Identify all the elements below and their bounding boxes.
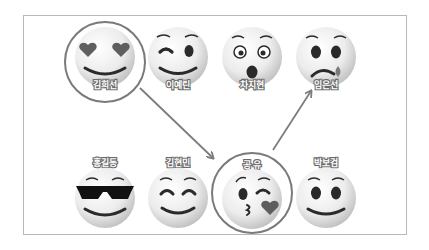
kissing-face-icon (222, 169, 282, 229)
astonished-face-icon (222, 27, 282, 87)
person-node-2[interactable]: 차지현 (222, 27, 282, 90)
person-name-label: 이예린 (166, 79, 189, 90)
person-node-5[interactable]: 김현민 (148, 157, 208, 228)
person-node-4[interactable]: 홍길동 (75, 157, 135, 228)
heart-eyes-face-icon (75, 27, 135, 87)
smiling-closed-eyes-face-icon (148, 168, 208, 228)
person-node-0[interactable]: 김희선 (75, 27, 135, 90)
sunglasses-face-icon (75, 168, 135, 228)
arrow-kimheesun-to-gongyoo (140, 88, 213, 158)
person-node-7[interactable]: 박보검 (296, 157, 356, 228)
crying-face-icon (296, 27, 356, 87)
person-node-1[interactable]: 이예린 (148, 27, 208, 90)
person-name-label: 공 유 (243, 160, 262, 170)
person-name-label: 박보검 (314, 157, 337, 168)
arrow-gongyoo-to-imeunsun (273, 91, 311, 150)
person-node-3[interactable]: 임은선 (296, 27, 356, 90)
person-name-label: 홍길동 (93, 157, 116, 168)
person-name-label: 김현민 (166, 157, 189, 168)
person-node-6[interactable]: 공 유 (222, 160, 282, 229)
person-name-label: 김희선 (93, 79, 116, 90)
person-name-label: 임은선 (314, 79, 337, 90)
relationship-diagram: 김희선 이예린 차지현 (0, 0, 429, 250)
winking-face-icon (148, 27, 208, 87)
smiling-face-icon (296, 168, 356, 228)
person-name-label: 차지현 (240, 79, 263, 90)
